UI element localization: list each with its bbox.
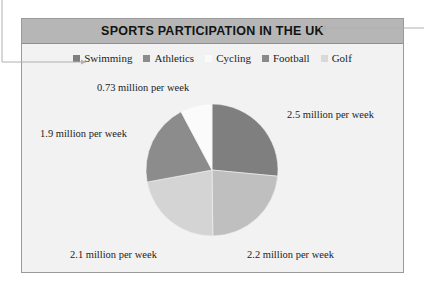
slice-label-athletics: 1.9 million per week: [40, 129, 127, 140]
slice-label-swimming: 2.5 million per week: [287, 110, 374, 121]
slice-label-golf: 2.1 million per week: [70, 250, 157, 261]
slice-label-football: 2.2 million per week: [247, 250, 334, 261]
pie-chart: [22, 19, 403, 272]
chart-panel: SPORTS PARTICIPATION IN THE UK Swimming …: [21, 18, 404, 273]
slice-label-cycling: 0.73 million per week: [97, 83, 189, 94]
pie-slice-swimming[interactable]: [212, 104, 278, 176]
pie-chart-area: 0.73 million per week 1.9 million per we…: [22, 19, 403, 272]
pie-slice-football[interactable]: [212, 170, 278, 236]
